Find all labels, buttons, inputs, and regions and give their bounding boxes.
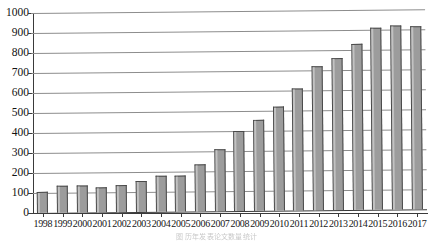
y-tick-label-1000: 1000	[0, 7, 29, 18]
y-tick-label-200: 200	[0, 167, 29, 178]
bar-1999	[57, 186, 68, 213]
x-tick-2007	[220, 213, 221, 217]
x-tick-2015	[378, 213, 379, 217]
x-tick-2016	[397, 213, 398, 217]
x-tick-2013	[338, 213, 339, 217]
bar-2004	[155, 176, 166, 212]
bar-2007	[214, 149, 226, 211]
bar-2015	[370, 28, 383, 210]
x-tick-2000	[82, 213, 83, 217]
plot-skew-layer	[31, 9, 427, 213]
x-tick-2010	[279, 213, 280, 217]
bar-highlight	[371, 29, 375, 210]
bar-2008	[234, 131, 246, 211]
x-tick-2002	[122, 213, 123, 217]
x-tick-2004	[161, 213, 162, 217]
bar-highlight	[254, 121, 257, 211]
bar-highlight	[352, 45, 356, 210]
bar-highlight	[411, 27, 415, 209]
y-tick-label-0: 0	[0, 207, 29, 218]
bar-series	[31, 9, 427, 213]
bar-highlight	[176, 176, 178, 211]
figure-caption: 图 历年发表论文数量统计	[0, 233, 433, 242]
x-tick-2008	[240, 213, 241, 217]
bar-2001	[96, 187, 107, 212]
bar-highlight	[137, 182, 139, 212]
bar-highlight	[77, 187, 79, 213]
bar-2005	[175, 175, 186, 211]
x-tick-1998	[43, 213, 44, 217]
x-axis-labels: 1998199920002001200220032004200520062007…	[33, 218, 427, 232]
bar-highlight	[58, 187, 60, 213]
bar-highlight	[156, 177, 158, 212]
bar-2013	[331, 58, 343, 210]
bar-highlight	[332, 59, 335, 210]
y-tick-label-300: 300	[0, 147, 29, 158]
x-tick-label-2017: 2017	[404, 218, 430, 230]
bar-2011	[292, 88, 304, 210]
x-tick-2003	[141, 213, 142, 217]
bar-2009	[253, 120, 265, 211]
bar-highlight	[38, 193, 40, 213]
x-tick-2011	[299, 213, 300, 217]
bar-1998	[37, 192, 48, 213]
bar-highlight	[97, 188, 99, 212]
bar-2016	[390, 26, 403, 210]
bar-2006	[194, 164, 205, 211]
bar-2014	[351, 44, 364, 210]
bar-2010	[273, 107, 285, 211]
bar-highlight	[235, 132, 238, 211]
x-tick-2017	[417, 213, 418, 217]
x-tick-2012	[319, 213, 320, 217]
bar-highlight	[274, 108, 277, 211]
y-tick-label-800: 800	[0, 47, 29, 58]
bar-highlight	[195, 165, 197, 211]
bar-2002	[116, 185, 127, 212]
bar-highlight	[391, 27, 395, 210]
plot-area	[33, 13, 427, 213]
bar-highlight	[117, 186, 119, 212]
y-tick-label-100: 100	[0, 187, 29, 198]
bar-chart: 01002003004005006007008009001000 1998199…	[0, 0, 433, 244]
bar-2000	[76, 185, 87, 212]
bar-2003	[136, 181, 147, 212]
x-tick-2014	[358, 213, 359, 217]
y-tick-label-600: 600	[0, 87, 29, 98]
y-tick-label-700: 700	[0, 67, 29, 78]
y-tick-label-400: 400	[0, 127, 29, 138]
x-tick-2006	[200, 213, 201, 217]
x-tick-2009	[260, 213, 261, 217]
bar-2012	[312, 66, 324, 210]
y-tick-label-900: 900	[0, 27, 29, 38]
bar-highlight	[215, 150, 218, 211]
x-tick-2001	[102, 213, 103, 217]
bar-highlight	[293, 89, 296, 210]
x-tick-2005	[181, 213, 182, 217]
x-tick-1999	[63, 213, 64, 217]
bar-2017	[410, 26, 423, 209]
bar-highlight	[313, 67, 316, 210]
x-axis-line	[33, 213, 428, 214]
y-tick-label-500: 500	[0, 107, 29, 118]
